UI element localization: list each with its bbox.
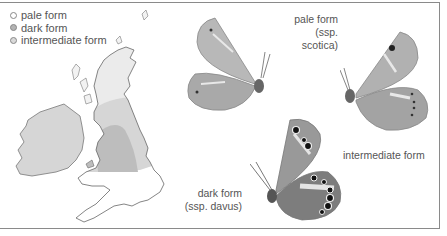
dark-form-title: dark form — [180, 187, 242, 200]
dark-form-caption: dark form (ssp. davus) — [180, 187, 242, 213]
pale-form-caption: pale form (ssp. scotica) — [282, 13, 338, 52]
british-isles-map — [0, 0, 190, 236]
dark-form-subtitle: (ssp. davus) — [180, 200, 242, 213]
pale-form-title: pale form — [282, 13, 338, 26]
pale-form-subtitle: (ssp. scotica) — [282, 26, 338, 52]
dark-form-butterfly-illustration — [250, 112, 350, 224]
intermediate-form-caption: intermediate form — [343, 149, 425, 162]
intermediate-form-title: intermediate form — [343, 149, 425, 162]
ireland — [16, 104, 84, 176]
intermediate-form-butterfly-illustration — [340, 28, 435, 140]
pale-form-butterfly-illustration — [185, 12, 280, 117]
